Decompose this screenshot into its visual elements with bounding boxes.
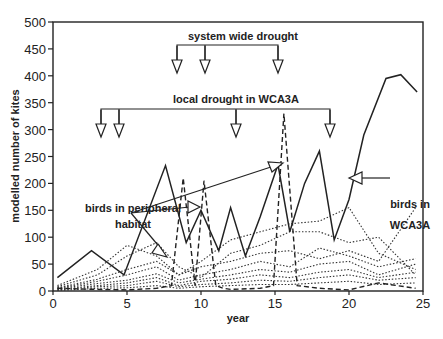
system-drought-label: system wide drought bbox=[188, 30, 298, 42]
local-drought-annotation: local drought in WCA3A bbox=[96, 93, 335, 137]
y-tick-label: 500 bbox=[24, 15, 46, 30]
y-tick-label: 250 bbox=[24, 150, 46, 165]
drought-arrow-icon bbox=[325, 124, 335, 137]
x-tick-label: 10 bbox=[194, 296, 208, 311]
drought-arrow-icon bbox=[96, 124, 106, 137]
drought-arrow-icon bbox=[200, 60, 210, 73]
drought-arrow-icon bbox=[273, 60, 283, 73]
drought-arrow-icon bbox=[172, 60, 182, 73]
y-tick-label: 400 bbox=[24, 69, 46, 84]
arrow-head-icon bbox=[188, 201, 200, 213]
y-tick-label: 0 bbox=[39, 284, 46, 299]
x-axis-label: year bbox=[227, 312, 250, 324]
y-tick-label: 50 bbox=[32, 257, 46, 272]
system-drought-annotation: system wide drought bbox=[172, 30, 298, 73]
x-axis: 0510152025 bbox=[49, 291, 430, 311]
y-tick-label: 300 bbox=[24, 123, 46, 138]
peripheral-annotation: birds in peripheral habitat bbox=[85, 162, 283, 257]
peripheral-label-line2: habitat bbox=[115, 218, 151, 230]
drought-arrow-icon bbox=[114, 124, 124, 137]
x-tick-label: 25 bbox=[416, 296, 430, 311]
dotted-trace bbox=[57, 208, 415, 288]
y-tick-label: 150 bbox=[24, 203, 46, 218]
peripheral-dotted-series bbox=[57, 208, 415, 291]
x-tick-label: 5 bbox=[123, 296, 130, 311]
y-axis: 050100150200250300350400450500 bbox=[24, 15, 53, 299]
y-tick-label: 350 bbox=[24, 96, 46, 111]
plot-frame bbox=[53, 22, 423, 291]
wca3a-label-line1: birds in bbox=[390, 198, 430, 210]
x-tick-label: 20 bbox=[342, 296, 356, 311]
x-tick-label: 15 bbox=[268, 296, 282, 311]
y-tick-label: 100 bbox=[24, 230, 46, 245]
wca3a-annotation: birds in WCA3A bbox=[349, 172, 430, 231]
y-tick-label: 450 bbox=[24, 42, 46, 57]
wca3a-label-line2: WCA3A bbox=[390, 219, 430, 231]
wca3a-solid-series bbox=[57, 75, 417, 278]
y-axis-label: modelled number of kites bbox=[9, 89, 21, 222]
x-tick-label: 0 bbox=[49, 296, 56, 311]
drought-arrow-icon bbox=[231, 124, 241, 137]
chart: 050100150200250300350400450500 051015202… bbox=[0, 0, 443, 339]
local-drought-label: local drought in WCA3A bbox=[173, 93, 299, 105]
y-tick-label: 200 bbox=[24, 176, 46, 191]
